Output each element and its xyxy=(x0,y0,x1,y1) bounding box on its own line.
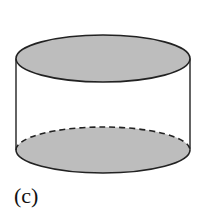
figure-label: (c) xyxy=(14,185,38,207)
top-face xyxy=(16,35,190,82)
cylinder-diagram xyxy=(0,0,206,214)
